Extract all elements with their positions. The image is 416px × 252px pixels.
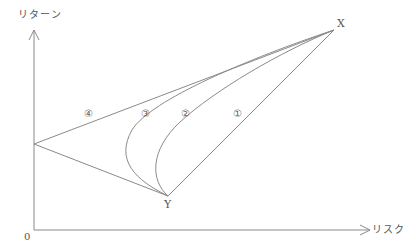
curve-3-label: ③ [141,109,150,119]
x-axis-label: リスク [372,225,405,235]
origin-label: 0 [24,232,30,242]
curve-1-label: ① [233,109,242,119]
line-1 [168,30,334,196]
line-4-upper [34,30,334,144]
point-y-label: Y [164,199,171,210]
diagram-canvas [0,0,416,252]
y-axis-label: リターン [18,10,62,20]
line-4-lower [34,144,168,196]
curve-3 [126,30,334,196]
curve-4-label: ④ [84,109,93,119]
point-x-label: X [337,18,345,29]
curve-2-label: ② [181,109,190,119]
